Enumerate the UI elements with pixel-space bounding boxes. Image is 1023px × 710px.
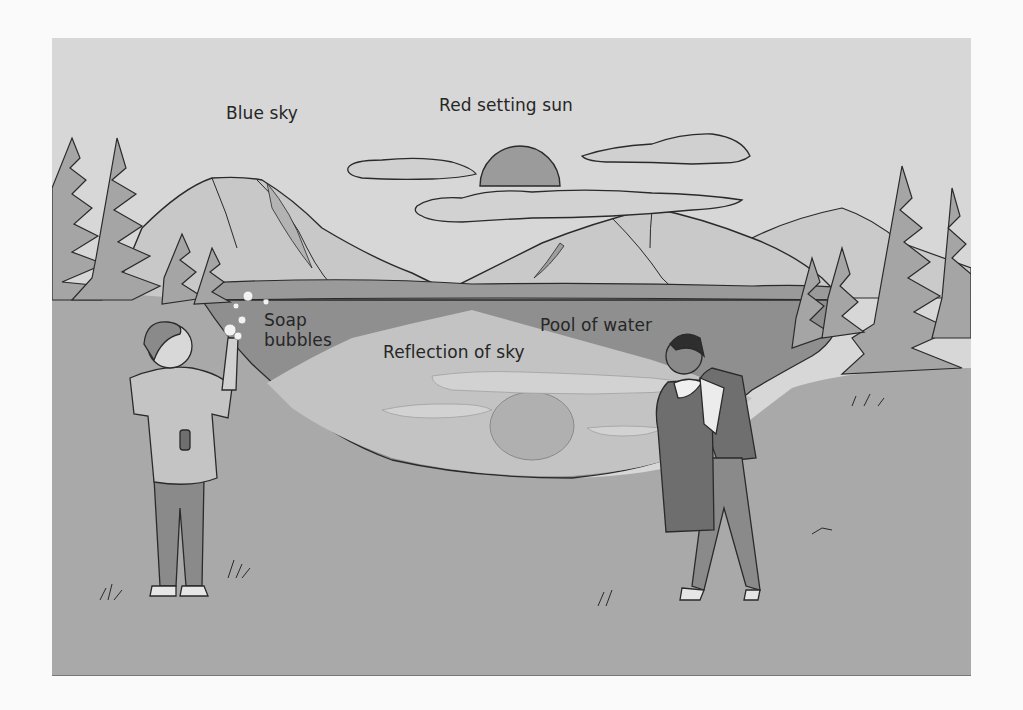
label-pool-of-water: Pool of water xyxy=(540,316,652,335)
label-red-setting-sun: Red setting sun xyxy=(439,96,573,115)
label-soap-bubbles-line2: bubbles xyxy=(264,331,332,350)
label-soap-bubbles-line1: Soap xyxy=(264,311,307,330)
illustration-frame: Blue sky Red setting sun Soap bubbles Po… xyxy=(52,38,971,675)
sun-reflection xyxy=(490,392,574,460)
label-blue-sky: Blue sky xyxy=(226,104,298,123)
label-reflection-of-sky: Reflection of sky xyxy=(383,343,525,362)
